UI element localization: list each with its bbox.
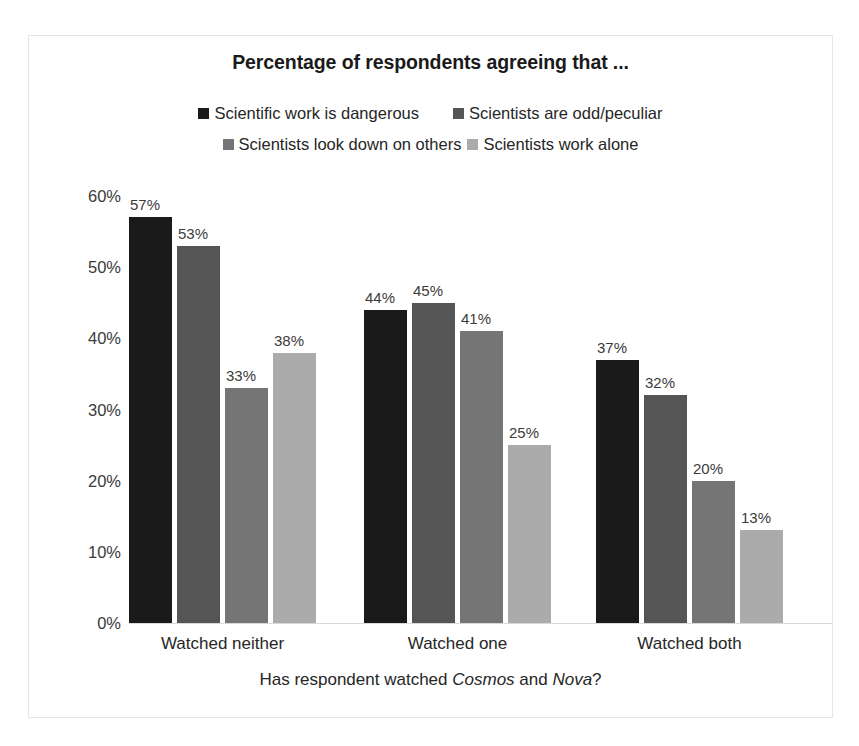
bar[interactable] xyxy=(273,353,316,623)
bar-slot: 57% xyxy=(129,196,172,623)
bar[interactable] xyxy=(596,360,639,623)
bar[interactable] xyxy=(644,395,687,623)
bar-group: 57%53%33%38% xyxy=(129,196,316,623)
x-axis-title-emphasis: Nova xyxy=(552,670,592,689)
bar[interactable] xyxy=(412,303,455,623)
bar-value-label: 41% xyxy=(461,311,491,326)
bar-slot: 25% xyxy=(508,196,551,623)
bar-group: 37%32%20%13% xyxy=(596,196,783,623)
bar-slot: 53% xyxy=(177,196,220,623)
bar-value-label: 45% xyxy=(413,283,443,298)
x-axis-title-text: and xyxy=(515,670,553,689)
bar-slot: 13% xyxy=(740,196,783,623)
x-axis-category-label: Watched neither xyxy=(129,634,316,654)
x-axis-title-text: ? xyxy=(592,670,601,689)
y-axis-tick-label: 20% xyxy=(35,471,121,490)
bar-slot: 44% xyxy=(364,196,407,623)
bar-value-label: 44% xyxy=(365,290,395,305)
bar-slot: 37% xyxy=(596,196,639,623)
x-axis-title-emphasis: Cosmos xyxy=(452,670,514,689)
bar-value-label: 37% xyxy=(597,340,627,355)
bar-value-label: 20% xyxy=(693,461,723,476)
bar-slot: 45% xyxy=(412,196,455,623)
bar[interactable] xyxy=(177,246,220,623)
bar-slot: 41% xyxy=(460,196,503,623)
y-axis-tick-label: 10% xyxy=(35,542,121,561)
plot-area: 60%50%40%30%20%10%0% 57%53%33%38%44%45%4… xyxy=(29,36,832,717)
bar-value-label: 13% xyxy=(741,510,771,525)
bar-slot: 33% xyxy=(225,196,268,623)
bar[interactable] xyxy=(225,388,268,623)
bar-group: 44%45%41%25% xyxy=(364,196,551,623)
bar[interactable] xyxy=(364,310,407,623)
bars-area: 57%53%33%38%44%45%41%25%37%32%20%13% xyxy=(129,196,829,623)
bar-slot: 20% xyxy=(692,196,735,623)
x-axis-title-text: Has respondent watched xyxy=(259,670,452,689)
bar[interactable] xyxy=(740,530,783,623)
y-axis-tick-label: 0% xyxy=(35,614,121,633)
x-axis-title: Has respondent watched Cosmos and Nova? xyxy=(29,670,832,690)
y-axis: 60%50%40%30%20%10%0% xyxy=(29,196,121,623)
bar-value-label: 32% xyxy=(645,375,675,390)
bar-slot: 32% xyxy=(644,196,687,623)
bar[interactable] xyxy=(508,445,551,623)
bar-slot: 38% xyxy=(273,196,316,623)
y-axis-tick-label: 40% xyxy=(35,329,121,348)
bar[interactable] xyxy=(129,217,172,623)
bar[interactable] xyxy=(460,331,503,623)
bar-value-label: 33% xyxy=(226,368,256,383)
bar-value-label: 57% xyxy=(130,197,160,212)
x-axis-line xyxy=(129,623,832,624)
bar-value-label: 25% xyxy=(509,425,539,440)
x-axis-category-label: Watched one xyxy=(364,634,551,654)
chart-container: Percentage of respondents agreeing that … xyxy=(28,35,833,718)
y-axis-tick-label: 60% xyxy=(35,187,121,206)
bar-value-label: 38% xyxy=(274,333,304,348)
x-axis-category-label: Watched both xyxy=(596,634,783,654)
bar-value-label: 53% xyxy=(178,226,208,241)
y-axis-tick-label: 50% xyxy=(35,258,121,277)
y-axis-tick-label: 30% xyxy=(35,400,121,419)
bar[interactable] xyxy=(692,481,735,623)
